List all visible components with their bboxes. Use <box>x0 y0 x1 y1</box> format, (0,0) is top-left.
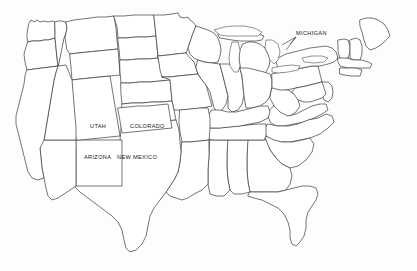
state-arizona <box>40 140 76 200</box>
label-utah: UTAH <box>90 124 106 130</box>
state-south-dakota <box>118 36 158 60</box>
state-wyoming <box>70 49 120 80</box>
label-michigan: MICHIGAN <box>296 31 327 37</box>
state-kansas <box>121 80 172 104</box>
state-montana <box>65 16 118 54</box>
state-outlines <box>16 13 390 252</box>
state-alabama <box>227 140 250 194</box>
state-florida <box>248 186 318 246</box>
state-north-dakota <box>114 15 156 38</box>
state-ohio <box>240 68 272 108</box>
state-arkansas <box>179 108 210 142</box>
lake-superior <box>214 26 262 36</box>
lake-michigan <box>229 42 240 72</box>
state-utah <box>72 76 120 140</box>
state-mississippi <box>208 140 230 196</box>
state-connecticut <box>340 68 362 76</box>
label-new-mexico: NEW MEXICO <box>117 155 157 161</box>
state-washington <box>27 20 55 42</box>
state-vermont <box>338 39 350 59</box>
lake-ontario <box>302 56 328 63</box>
state-new-hampshire <box>350 38 362 60</box>
state-iowa <box>158 53 198 77</box>
state-new-mexico <box>76 140 122 186</box>
state-maine <box>360 18 390 50</box>
map-svg-canvas <box>0 0 417 271</box>
us-outline-map: MICHIGAN UTAH COLORADO ARIZONA NEW MEXIC… <box>0 0 417 271</box>
label-arizona: ARIZONA <box>84 155 111 161</box>
michigan-leader-line <box>282 37 296 50</box>
label-colorado: COLORADO <box>130 124 165 130</box>
state-oregon <box>24 38 58 70</box>
